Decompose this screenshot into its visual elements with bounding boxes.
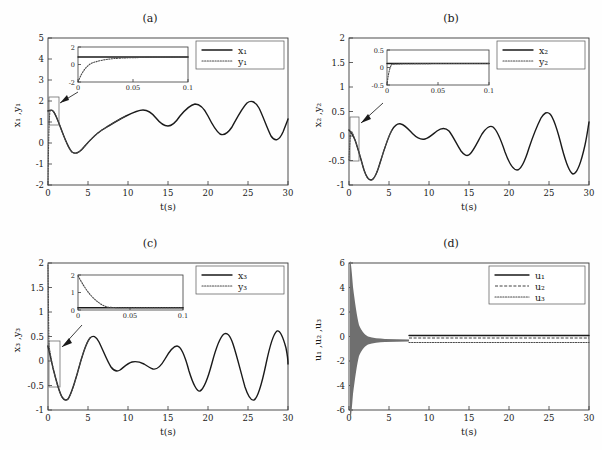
panel-d-ytick-m4: -4 — [337, 381, 345, 391]
panel-c-inset-xtick-01: 0.1 — [178, 312, 188, 320]
panel-b: (b) 2 1.5 1 0.5 0 -0.5 -1 — [301, 0, 602, 225]
panel-a-plot: (a) 5 4 3 2 1 0 -1 -2 — [0, 0, 301, 225]
panel-b-xtick-15: 15 — [464, 188, 475, 198]
panel-a-inset-ytick-0: 0 — [71, 61, 75, 69]
panel-c-xtick-10: 10 — [123, 413, 134, 423]
panel-b-ytick-1: 1 — [340, 82, 345, 92]
panel-d-legend-label-u2: u₂ — [535, 281, 545, 292]
panel-c-inset-xtick-0: 0 — [76, 312, 80, 320]
panel-c-inset-ytick-1: 1 — [71, 289, 75, 297]
panel-c-inset-ytick-0: 0 — [71, 307, 75, 315]
panel-c-xtick-25: 25 — [243, 413, 254, 423]
panel-b-inset-xtick-01: 0.1 — [484, 87, 494, 95]
panel-d-ylabel: u₁ ,u₂ ,u₃ — [312, 319, 323, 361]
panel-b-curve-x2 — [349, 113, 589, 180]
panel-a-inset-xtick-005: 0.05 — [126, 84, 140, 92]
panel-b-xlabel: t(s) — [461, 201, 477, 212]
panel-d-legend: u₁ u₂ u₃ — [489, 266, 585, 304]
panel-c-ytick-1: 1 — [39, 307, 44, 317]
panel-b-xtick-20: 20 — [504, 188, 515, 198]
panel-d-title: (d) — [443, 237, 459, 250]
panel-b-ytick-05: 0.5 — [331, 107, 345, 117]
panel-d: (d) 6 4 2 0 -2 -4 -6 — [301, 225, 602, 450]
panel-b-ytick-m1: -1 — [337, 180, 345, 190]
panel-b-inset-ytick-05: 0.5 — [374, 47, 384, 55]
panel-c-xtick-5: 5 — [85, 413, 90, 423]
panel-c-curve-x3 — [48, 331, 288, 400]
panel-a-xtick-25: 25 — [243, 188, 254, 198]
panel-b-title: (b) — [443, 12, 459, 25]
panel-b-inset-ytick-m05: -0.5 — [371, 82, 384, 90]
panel-a-ytick-m1: -1 — [36, 159, 44, 169]
panel-d-plot: (d) 6 4 2 0 -2 -4 -6 — [301, 225, 602, 450]
panel-c-ytick-15: 1.5 — [30, 283, 44, 293]
panel-d-xlabel: t(s) — [461, 426, 477, 437]
panel-c-ytick-0: 0 — [39, 356, 44, 366]
panel-d-xtick-25: 25 — [544, 413, 555, 423]
panel-b-legend-label-x2: x₂ — [539, 45, 548, 56]
panel-a-xlabel: t(s) — [160, 201, 176, 212]
panel-a-xtick-5: 5 — [85, 188, 90, 198]
panel-c-inset: 2 1 0 0 0.05 0.1 — [71, 272, 188, 321]
panel-c-title: (c) — [143, 237, 158, 250]
panel-b-ytick-15: 1.5 — [331, 58, 345, 68]
panel-c-xtick-0: 0 — [45, 413, 50, 423]
panel-a-ytick-0: 0 — [39, 138, 44, 148]
panel-c-ytick-2: 2 — [39, 258, 44, 268]
panel-a-xtick-0: 0 — [45, 188, 50, 198]
panel-b-ytick-0: 0 — [340, 131, 345, 141]
panel-c-inset-xtick-005: 0.05 — [123, 312, 137, 320]
panel-b-inset-xtick-005: 0.05 — [431, 87, 445, 95]
panel-b-xtick-5: 5 — [386, 188, 391, 198]
panel-c-x-ticks: 0 5 10 15 20 25 30 — [45, 406, 293, 423]
panel-b-ytick-m05: -0.5 — [329, 156, 345, 166]
panel-d-ytick-6: 6 — [340, 258, 345, 268]
panel-c-legend-label-x3: x₃ — [238, 270, 247, 281]
panel-c-xlabel: t(s) — [160, 426, 176, 437]
panel-a-callout-arrow — [60, 92, 78, 103]
panel-a-ytick-5: 5 — [39, 33, 44, 43]
panel-c-xtick-30: 30 — [283, 413, 294, 423]
panel-c-callout-arrow — [62, 325, 82, 347]
panel-a-inset-xtick-0: 0 — [76, 84, 80, 92]
panel-d-legend-label-u3: u₃ — [535, 292, 545, 303]
panel-a-xtick-10: 10 — [123, 188, 134, 198]
panel-b-ylabel: x₂ ,y₂ — [312, 103, 323, 128]
panel-a-ytick-m2: -2 — [36, 180, 44, 190]
panel-d-xtick-15: 15 — [464, 413, 475, 423]
panel-c-ytick-m05: -0.5 — [28, 381, 44, 391]
panel-b-inset-xtick-0: 0 — [385, 87, 389, 95]
panel-b-curve-y2 — [349, 130, 392, 180]
panel-a-inset-xtick-01: 0.1 — [183, 84, 193, 92]
panel-a-legend-label-x1: x₁ — [238, 45, 247, 56]
panel-a-xtick-30: 30 — [283, 188, 294, 198]
panel-b-ytick-2: 2 — [340, 33, 345, 43]
panel-a-inset-ytick-m2: -2 — [69, 79, 75, 87]
panel-b-xtick-30: 30 — [584, 188, 595, 198]
panel-c-ytick-m1: -1 — [36, 405, 44, 415]
panel-b-plot: (b) 2 1.5 1 0.5 0 -0.5 -1 — [301, 0, 602, 225]
panel-b-inset: 0.5 0 -0.5 0 0.05 0.1 — [371, 47, 494, 96]
panel-a-curve-y1 — [48, 110, 126, 185]
panel-c-legend-label-y3: y₃ — [237, 281, 247, 292]
panel-b-callout-arrow — [361, 103, 383, 123]
panel-d-x-ticks: 0 5 10 15 20 25 30 — [346, 406, 594, 423]
panel-c-legend: x₃ y₃ — [196, 266, 284, 294]
panel-a-x-ticks: 0 5 10 15 20 25 30 — [45, 181, 293, 198]
panel-d-xtick-5: 5 — [386, 413, 391, 423]
panel-b-x-ticks: 0 5 10 15 20 25 30 — [346, 181, 594, 198]
panel-a-xtick-20: 20 — [203, 188, 214, 198]
panel-d-ytick-0: 0 — [340, 332, 345, 342]
panel-c-plot: (c) 2 1.5 1 0.5 0 -0.5 -1 — [0, 225, 301, 450]
panel-c-xtick-15: 15 — [163, 413, 174, 423]
panel-a-curve-x1 — [48, 101, 288, 153]
panel-a-ytick-4: 4 — [39, 54, 44, 64]
panel-c: (c) 2 1.5 1 0.5 0 -0.5 -1 — [0, 225, 301, 450]
panel-a-inset: 2 0 -2 0 0.05 0.1 — [69, 44, 194, 93]
figure-four-panel: (a) 5 4 3 2 1 0 -1 -2 — [0, 0, 602, 450]
panel-c-ylabel: x₃ ,y₃ — [11, 328, 22, 353]
panel-d-xtick-30: 30 — [584, 413, 595, 423]
panel-a-xtick-15: 15 — [163, 188, 174, 198]
panel-b-xtick-10: 10 — [424, 188, 435, 198]
panel-a-title: (a) — [142, 12, 157, 25]
